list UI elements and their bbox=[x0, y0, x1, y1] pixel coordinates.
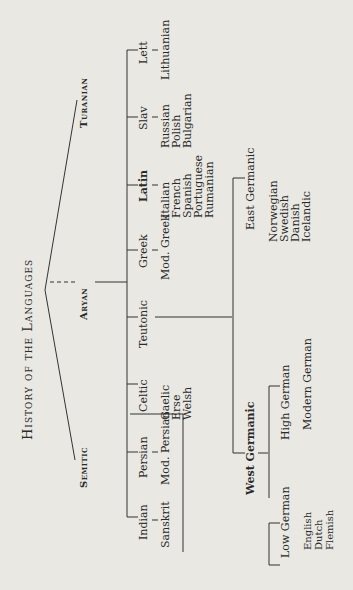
root-aryan: Aryan bbox=[78, 288, 89, 320]
branch-persian: Persian bbox=[138, 437, 149, 478]
branch-lett: Lett bbox=[138, 41, 149, 64]
east-germanic: East Germanic bbox=[245, 148, 256, 230]
branch-slav: Slav bbox=[138, 106, 149, 130]
lang-lithuanian: Lithuanian bbox=[160, 20, 171, 80]
low-german: Low German bbox=[280, 487, 291, 558]
lang-slav-list: Russian Polish Bulgarian bbox=[160, 93, 193, 148]
branch-greek: Greek bbox=[138, 234, 149, 268]
west-germanic: West Germanic bbox=[245, 402, 256, 495]
root-semitic: Semitic bbox=[78, 447, 89, 488]
lang-celtic-list: Gaelic Erse Welsh bbox=[160, 385, 193, 420]
lang-mod-persian: Mod. Persian bbox=[160, 412, 171, 485]
branch-latin: Latin bbox=[138, 170, 149, 202]
lang-sanskrit: Sanskrit bbox=[160, 501, 171, 548]
lang-latin-list: Italian French Spanish Portuguese Rumani… bbox=[160, 155, 215, 218]
root-turanian: Turanian bbox=[78, 78, 89, 128]
modern-german: Modern German bbox=[302, 338, 313, 430]
branch-celtic: Celtic bbox=[138, 379, 149, 412]
high-german: High German bbox=[280, 365, 291, 440]
tree-lines bbox=[0, 0, 353, 590]
east-germanic-list: Norwegian Swedish Danish Icelandic bbox=[268, 180, 312, 242]
branch-indian: Indian bbox=[138, 504, 149, 540]
lang-mod-greek: Mod. Greek bbox=[160, 214, 171, 280]
diagram-title: History of the Languages bbox=[22, 259, 33, 440]
low-german-list: English Dutch Flemish bbox=[302, 510, 335, 550]
branch-teutonic: Teutonic bbox=[138, 300, 149, 348]
